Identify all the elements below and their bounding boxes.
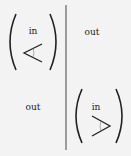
greater-than-angle-icon <box>92 116 110 136</box>
angle-arc-icon <box>100 121 101 131</box>
in-out-diagram: in out out in <box>0 0 131 156</box>
right-parenthesis <box>116 89 122 143</box>
angle-arc-icon <box>33 49 34 58</box>
left-parenthesis <box>10 14 16 70</box>
right-parenthesis <box>50 14 56 70</box>
label-in-top: in <box>29 26 38 36</box>
label-out-bottom: out <box>26 102 41 112</box>
top-left-enclosure: in <box>10 14 56 70</box>
bottom-right-enclosure: in <box>76 89 122 143</box>
label-out-top: out <box>85 27 100 37</box>
left-parenthesis <box>76 89 82 143</box>
label-in-bottom: in <box>92 102 101 112</box>
less-than-angle-icon <box>24 44 42 62</box>
